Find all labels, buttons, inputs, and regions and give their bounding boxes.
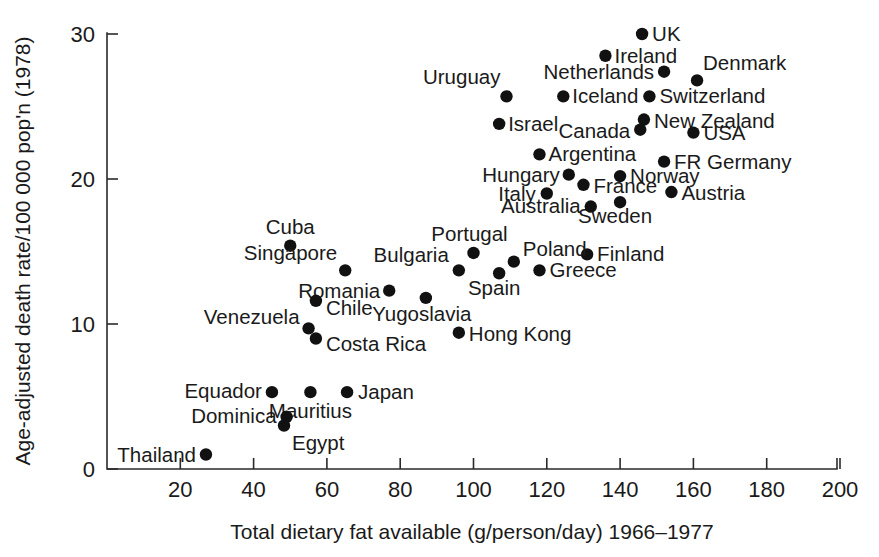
point-label: UK [652, 22, 681, 45]
data-point: Egypt [278, 419, 345, 453]
x-tick-label: 180 [748, 477, 785, 502]
point-label: Argentina [548, 142, 636, 165]
x-tick-label: 140 [602, 477, 639, 502]
point-label: Netherlands [544, 60, 655, 83]
point-label: Denmark [703, 51, 787, 74]
x-tick-label: 40 [241, 477, 265, 502]
point-marker [636, 28, 648, 40]
point-label: Australia [501, 194, 581, 217]
y-tick-label: 20 [71, 167, 95, 192]
x-tick-label: 60 [315, 477, 339, 502]
point-label: France [593, 174, 657, 197]
y-tick-label: 0 [83, 457, 95, 482]
point-label: Egypt [292, 431, 345, 454]
point-marker [310, 332, 322, 344]
point-label: Hong Kong [469, 322, 572, 345]
point-marker [533, 148, 545, 160]
data-point: Hong Kong [453, 322, 572, 345]
point-label: Uruguay [423, 65, 501, 88]
point-marker [493, 118, 505, 130]
data-point: Israel [493, 112, 558, 135]
point-label: Singapore [244, 241, 337, 264]
point-marker [310, 295, 322, 307]
x-tick-label: 200 [822, 477, 859, 502]
point-marker [643, 90, 655, 102]
point-marker [302, 322, 314, 334]
x-tick-label: 80 [388, 477, 412, 502]
point-marker [500, 90, 512, 102]
point-marker [665, 186, 677, 198]
point-marker [341, 386, 353, 398]
point-marker [266, 386, 278, 398]
point-label: Iceland [572, 84, 638, 107]
x-tick-label: 160 [675, 477, 712, 502]
data-point: Bulgaria [374, 243, 465, 276]
data-point: Iceland [557, 84, 638, 107]
point-label: Yugoslavia [372, 302, 472, 325]
data-point: Singapore [244, 241, 352, 276]
data-point: Spain [468, 267, 520, 299]
point-marker [453, 327, 465, 339]
point-label: Costa Rica [326, 332, 427, 355]
point-label: Chile [326, 296, 373, 319]
data-point: Netherlands [544, 60, 671, 83]
data-point: Denmark [691, 51, 787, 86]
point-label: Thailand [117, 443, 196, 466]
x-tick-label: 100 [455, 477, 492, 502]
point-marker [339, 264, 351, 276]
point-label: Portugal [431, 222, 507, 245]
point-marker [383, 284, 395, 296]
point-label: Spain [468, 276, 520, 299]
point-marker [533, 264, 545, 276]
point-label: Japan [358, 380, 414, 403]
point-marker [557, 90, 569, 102]
chart-canvas: 204060801001201401601802000102030 UKIrel… [0, 0, 879, 557]
point-label: Poland [523, 237, 587, 260]
point-marker [304, 386, 316, 398]
data-points: UKIrelandNetherlandsDenmarkUruguayIcelan… [117, 22, 792, 466]
scatter-plot-figure: 204060801001201401601802000102030 UKIrel… [0, 0, 879, 557]
x-axis-title: Total dietary fat available (g/person/da… [230, 520, 713, 543]
point-label: Canada [558, 119, 630, 142]
data-point: Thailand [117, 443, 212, 466]
point-label: Switzerland [659, 84, 765, 107]
data-point: Costa Rica [310, 332, 427, 355]
point-marker [638, 113, 650, 125]
point-label: Equador [184, 379, 262, 402]
data-point: Chile [310, 295, 373, 319]
data-point: France [577, 174, 657, 197]
y-axis-title: Age-adjusted death rate/100 000 pop'n (1… [11, 36, 34, 465]
point-marker [453, 264, 465, 276]
point-marker [200, 448, 212, 460]
data-point: Switzerland [643, 84, 765, 107]
point-label: Bulgaria [374, 243, 450, 266]
data-point: Equador [184, 379, 278, 402]
point-label: Israel [508, 112, 558, 135]
point-marker [687, 126, 699, 138]
y-tick-label: 10 [71, 312, 95, 337]
data-point: UK [636, 22, 681, 45]
point-marker [658, 66, 670, 78]
point-marker [278, 419, 290, 431]
point-label: Cuba [266, 215, 316, 238]
point-marker [508, 255, 520, 267]
x-tick-label: 20 [168, 477, 192, 502]
y-tick-label: 30 [71, 22, 95, 47]
data-point: Venezuela [204, 305, 315, 334]
point-marker [577, 179, 589, 191]
x-tick-label: 120 [528, 477, 565, 502]
point-label: Venezuela [204, 305, 300, 328]
point-marker [467, 247, 479, 259]
data-point: Greece [533, 258, 616, 281]
data-point: Canada [558, 119, 646, 142]
point-label: USA [703, 121, 745, 144]
data-point: Uruguay [423, 65, 513, 102]
point-marker [563, 168, 575, 180]
point-label: Austria [681, 181, 745, 204]
data-point: Yugoslavia [372, 292, 472, 325]
point-label: Greece [549, 258, 616, 281]
point-label: Dominica [191, 404, 277, 427]
point-marker [585, 200, 597, 212]
